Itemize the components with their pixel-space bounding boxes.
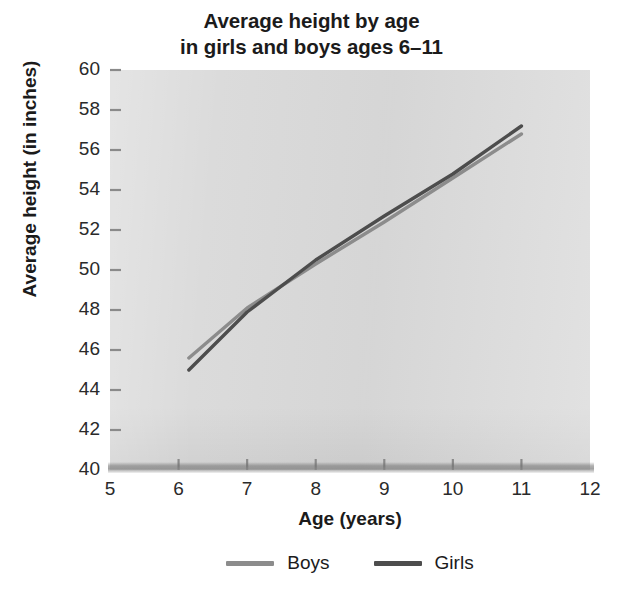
series-line-girls (189, 126, 522, 370)
x-tick-label: 9 (364, 478, 404, 500)
legend-label-boys: Boys (287, 552, 329, 574)
y-tick-label: 42 (54, 418, 100, 440)
y-tick-label: 46 (54, 338, 100, 360)
x-axis-title: Age (years) (110, 508, 590, 530)
x-tick-label: 10 (433, 478, 473, 500)
y-tick-label: 58 (54, 98, 100, 120)
chart-title: Average height by age in girls and boys … (0, 8, 623, 60)
x-tick-label: 11 (501, 478, 541, 500)
y-tick-label: 56 (54, 138, 100, 160)
x-tick-label: 8 (296, 478, 336, 500)
chart-legend: BoysGirls (110, 552, 590, 574)
chart-figure: Average height by age in girls and boys … (0, 0, 623, 600)
legend-item-boys[interactable]: Boys (226, 552, 329, 574)
series-line-boys (189, 134, 522, 358)
x-tick-label: 6 (159, 478, 199, 500)
x-tick-label: 7 (227, 478, 267, 500)
plot-svg (110, 70, 590, 470)
y-tick-label: 60 (54, 58, 100, 80)
y-axis-title: Average height (in inches) (19, 29, 41, 329)
legend-item-girls[interactable]: Girls (374, 552, 474, 574)
plot-area (110, 70, 590, 470)
y-tick-label: 54 (54, 178, 100, 200)
legend-swatch-boys (226, 561, 274, 566)
x-tick-label: 5 (90, 478, 130, 500)
chart-title-line-2: in girls and boys ages 6–11 (0, 34, 623, 60)
chart-title-line-1: Average height by age (0, 8, 623, 34)
y-tick-label: 52 (54, 218, 100, 240)
data-series-group (189, 126, 522, 370)
x-tick-label: 12 (570, 478, 610, 500)
x-axis-tick-marks (179, 459, 522, 470)
y-tick-label: 44 (54, 378, 100, 400)
legend-label-girls: Girls (435, 552, 474, 574)
y-axis-tick-marks (110, 70, 121, 430)
legend-swatch-girls (374, 561, 422, 566)
y-tick-label: 40 (54, 458, 100, 480)
y-tick-label: 48 (54, 298, 100, 320)
y-tick-label: 50 (54, 258, 100, 280)
